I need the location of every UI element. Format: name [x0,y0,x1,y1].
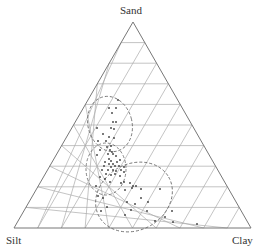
data-point [114,173,116,175]
data-point [129,182,131,184]
data-point [130,209,132,211]
triangular-grid [26,43,239,228]
data-point [111,151,113,153]
data-point [119,175,121,177]
data-point [159,188,161,190]
ternary-diagram: Sand Silt Clay [0,0,265,252]
data-point [110,160,112,162]
data-point [123,166,125,168]
data-point [106,146,108,148]
data-point [108,107,110,109]
data-point [104,161,106,163]
data-point [115,107,117,109]
data-point [146,210,148,212]
data-point [113,128,115,130]
data-point [112,121,114,123]
grid-line [74,125,133,228]
data-point [147,201,149,203]
data-point [109,149,111,151]
grid-line [26,207,227,228]
data-point [123,171,125,173]
data-point [106,206,108,208]
data-point [115,121,117,123]
data-point [107,153,109,155]
data-point [115,170,117,172]
data-points [95,99,198,225]
data-point [97,140,99,142]
data-point [140,188,142,190]
data-point [123,181,125,183]
data-point [99,176,101,178]
data-point [112,163,114,165]
data-point [113,137,115,139]
data-point [95,185,97,187]
data-point [114,165,116,167]
data-point [124,189,126,191]
data-point [126,201,128,203]
data-point [196,223,198,225]
vertex-label-clay: Clay [232,234,253,246]
vertex-label-silt: Silt [6,234,21,246]
upper-ellipse [82,91,139,156]
data-point [172,221,174,223]
data-point [110,127,112,129]
data-point [112,153,114,155]
data-point [96,127,98,129]
data-point [103,165,105,167]
data-point [102,197,104,199]
data-point [118,165,120,167]
data-point [115,155,117,157]
data-point [105,173,107,175]
ternary-plot [0,0,265,252]
data-point [110,145,112,147]
data-point [110,174,112,176]
data-point [102,133,104,135]
data-point [107,169,109,171]
data-point [105,140,107,142]
data-point [119,159,121,161]
data-point [101,169,103,171]
data-point [140,197,142,199]
data-point [134,203,136,205]
data-point [120,182,122,184]
data-point [120,169,122,171]
data-point [100,210,102,212]
data-point [109,181,111,183]
vertex-label-sand: Sand [120,4,142,16]
data-point [108,163,110,165]
data-point [112,169,114,171]
data-point [111,112,113,114]
grid-line [50,166,180,228]
data-point [108,136,110,138]
data-point [117,99,119,101]
data-point [104,178,106,180]
data-point [131,187,133,189]
data-point [135,185,137,187]
data-point [97,195,99,197]
data-point [96,154,98,156]
data-point [110,166,112,168]
data-point [108,158,110,160]
data-point [154,220,156,222]
grid-line [85,84,168,228]
data-point [171,210,173,212]
grid-line [180,166,216,228]
grid-line [227,207,239,228]
data-point [132,185,134,187]
data-point [99,149,101,151]
data-point [116,161,118,163]
data-point [164,216,166,218]
data-point [124,214,126,216]
